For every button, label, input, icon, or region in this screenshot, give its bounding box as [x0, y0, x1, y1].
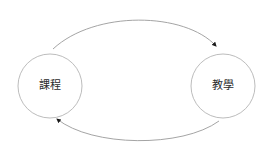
node-teaching-label: 教學: [212, 79, 235, 92]
node-course[interactable]: 課程: [18, 54, 82, 118]
node-teaching[interactable]: 教學: [191, 54, 255, 118]
edge-course-to-teaching: [53, 20, 216, 49]
edge-teaching-to-course: [57, 119, 219, 141]
diagram-canvas: 課程 教學: [0, 0, 271, 154]
node-course-label: 課程: [39, 78, 62, 92]
cycle-diagram: 課程 教學: [0, 0, 271, 154]
